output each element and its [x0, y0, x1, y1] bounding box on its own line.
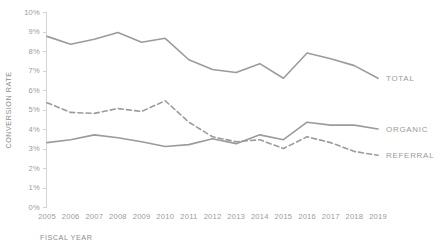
series-end-labels-group: TOTALORGANICREFERRAL	[386, 74, 434, 160]
x-tick-label: 2010	[156, 212, 174, 221]
x-tick-label: 2009	[133, 212, 151, 221]
x-tick-label: 2007	[85, 212, 103, 221]
y-tick-label: 5%	[29, 105, 40, 114]
x-tick-label: 2015	[275, 212, 293, 221]
y-tick-label: 7%	[29, 66, 40, 75]
x-tick-label: 2016	[298, 212, 316, 221]
x-tick-label: 2018	[346, 212, 364, 221]
x-tick-label: 2006	[62, 212, 80, 221]
y-tick-label: 8%	[29, 47, 40, 56]
series-line-organic	[47, 122, 378, 146]
y-tick-label: 2%	[29, 164, 40, 173]
y-tick-label: 10%	[24, 8, 40, 17]
x-tick-label: 2008	[109, 212, 127, 221]
x-tick-label: 2011	[180, 212, 197, 221]
conversion-rate-line-chart: 0%1%2%3%4%5%6%7%8%9%10% CONVERSION RATE …	[0, 0, 448, 252]
series-end-label-organic: ORGANIC	[386, 125, 428, 134]
y-tick-label: 1%	[29, 183, 40, 192]
y-axis-title: CONVERSION RATE	[4, 71, 13, 148]
y-tick-label: 4%	[29, 125, 40, 134]
y-axis-tick-labels: 0%1%2%3%4%5%6%7%8%9%10%	[24, 8, 40, 212]
x-tick-label: 2013	[227, 212, 245, 221]
series-lines-group	[47, 32, 378, 155]
x-axis-tick-labels: 2005200620072008200920102011201220132014…	[38, 212, 387, 221]
x-tick-label: 2014	[251, 212, 269, 221]
chart-canvas: 0%1%2%3%4%5%6%7%8%9%10% CONVERSION RATE …	[0, 0, 448, 252]
series-end-label-referral: REFERRAL	[386, 151, 434, 160]
y-tick-label: 3%	[29, 144, 40, 153]
x-tick-label: 2019	[369, 212, 387, 221]
y-tick-label: 6%	[29, 86, 40, 95]
x-tick-label: 2005	[38, 212, 56, 221]
series-line-total	[47, 32, 378, 78]
x-tick-label: 2012	[204, 212, 222, 221]
y-axis-tick-marks	[43, 13, 47, 208]
x-axis-title: FISCAL YEAR	[40, 233, 92, 242]
x-tick-label: 2017	[322, 212, 340, 221]
series-line-referral	[47, 101, 378, 156]
series-end-label-total: TOTAL	[386, 74, 415, 83]
y-tick-label: 0%	[29, 203, 40, 212]
y-tick-label: 9%	[29, 27, 40, 36]
